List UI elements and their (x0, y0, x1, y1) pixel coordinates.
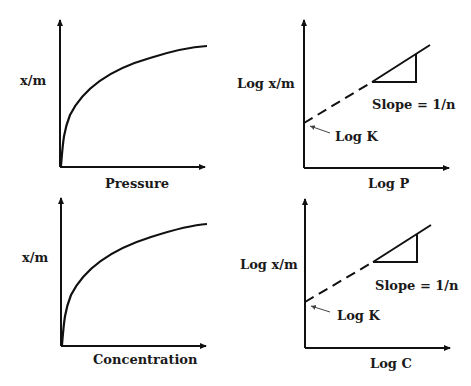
slope-label: Slope = 1/n (372, 97, 456, 112)
x-axis-label: Log C (370, 356, 412, 371)
intercept-label: Log K (335, 129, 378, 144)
extrapolated-dashed-line (305, 262, 373, 302)
panel-freundlich-pressure: x/m Pressure (20, 20, 207, 191)
linear-fit-line (372, 45, 430, 82)
linear-fit-line (373, 225, 431, 262)
y-axis-label: x/m (20, 73, 46, 88)
adsorption-isotherm-diagram: x/m Pressure Log x/m Slope = 1/n Log K L… (0, 0, 471, 386)
x-axis-label: Log P (368, 176, 409, 191)
intercept-pointer-arrow (311, 306, 330, 312)
slope-label: Slope = 1/n (375, 278, 459, 293)
panel-log-concentration: Log x/m Slope = 1/n Log K Log C (240, 199, 459, 371)
y-axis-label: x/m (22, 250, 48, 265)
isotherm-curve (61, 46, 207, 166)
x-axis-label: Pressure (105, 176, 169, 191)
y-axis-label: Log x/m (237, 76, 295, 91)
x-axis-label: Concentration (93, 352, 198, 367)
panel-log-pressure: Log x/m Slope = 1/n Log K Log P (237, 20, 456, 191)
panel-freundlich-concentration: x/m Concentration (22, 198, 207, 367)
isotherm-curve (62, 224, 207, 345)
y-axis-label: Log x/m (240, 257, 298, 272)
intercept-label: Log K (337, 308, 380, 323)
extrapolated-dashed-line (304, 82, 372, 123)
intercept-pointer-arrow (310, 126, 330, 133)
